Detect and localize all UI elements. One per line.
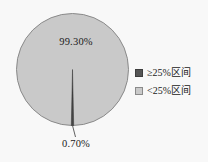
legend-label-dark: ≥25%区间 — [147, 68, 191, 78]
legend-label-light: <25%区间 — [147, 86, 191, 96]
legend-item-minor-threshold[interactable]: <25%区间 — [135, 82, 207, 99]
pie-label-major: 99.30% — [55, 36, 97, 47]
legend-swatch-icon-light — [135, 87, 143, 95]
legend-item-major-threshold[interactable]: ≥25%区间 — [135, 64, 207, 81]
legend-swatch-icon-dark — [135, 69, 143, 77]
pie-chart: 99.30% 0.70% ≥25%区间 <25%区间 — [0, 0, 208, 162]
leader-line-minor — [73, 126, 76, 138]
chart-legend: ≥25%区间 <25%区间 — [135, 64, 207, 100]
pie-label-minor: 0.70% — [55, 138, 97, 149]
